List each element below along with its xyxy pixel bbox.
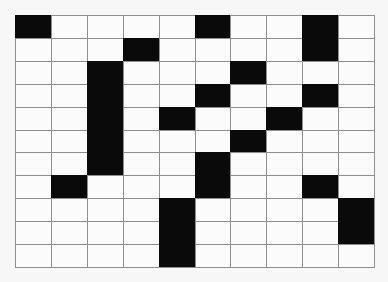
grid-cell-r10-c6[interactable] [230,244,266,267]
grid-cell-r8-c0[interactable] [15,198,51,221]
grid-cell-r1-c6[interactable] [230,38,266,61]
grid-cell-r1-c9[interactable] [338,38,374,61]
grid-cell-r5-c9[interactable] [338,130,374,153]
grid-cell-r0-c5[interactable] [195,15,231,38]
grid-cell-r7-c6[interactable] [230,175,266,198]
grid-cell-r9-c5[interactable] [195,221,231,244]
grid-cell-r8-c6[interactable] [230,198,266,221]
grid-cell-r4-c7[interactable] [266,107,302,130]
grid-cell-r2-c7[interactable] [266,61,302,84]
grid-cell-r6-c5[interactable] [195,152,231,175]
grid-cell-r10-c2[interactable] [87,244,123,267]
grid-cell-r4-c4[interactable] [159,107,195,130]
grid-cell-r5-c7[interactable] [266,130,302,153]
grid-cell-r3-c5[interactable] [195,84,231,107]
grid-cell-r0-c8[interactable] [302,15,338,38]
grid-cell-r7-c4[interactable] [159,175,195,198]
grid-cell-r6-c6[interactable] [230,152,266,175]
grid-cell-r5-c5[interactable] [195,130,231,153]
grid-cell-r1-c5[interactable] [195,38,231,61]
grid-cell-r9-c8[interactable] [302,221,338,244]
grid-cell-r3-c9[interactable] [338,84,374,107]
grid-cell-r10-c3[interactable] [123,244,159,267]
grid-cell-r6-c4[interactable] [159,152,195,175]
grid-cell-r4-c0[interactable] [15,107,51,130]
grid-cell-r6-c3[interactable] [123,152,159,175]
grid-cell-r6-c7[interactable] [266,152,302,175]
grid-cell-r9-c2[interactable] [87,221,123,244]
grid-cell-r10-c5[interactable] [195,244,231,267]
grid-cell-r9-c4[interactable] [159,221,195,244]
grid-cell-r8-c5[interactable] [195,198,231,221]
grid-cell-r2-c2[interactable] [87,61,123,84]
grid-cell-r7-c8[interactable] [302,175,338,198]
grid-cell-r10-c8[interactable] [302,244,338,267]
grid-cell-r4-c3[interactable] [123,107,159,130]
grid-cell-r3-c4[interactable] [159,84,195,107]
grid-cell-r8-c1[interactable] [51,198,87,221]
grid-cell-r4-c2[interactable] [87,107,123,130]
grid-cell-r5-c8[interactable] [302,130,338,153]
grid-cell-r10-c4[interactable] [159,244,195,267]
grid-cell-r10-c1[interactable] [51,244,87,267]
grid-cell-r2-c4[interactable] [159,61,195,84]
grid-cell-r10-c9[interactable] [338,244,374,267]
grid-cell-r2-c6[interactable] [230,61,266,84]
grid-cell-r3-c0[interactable] [15,84,51,107]
grid-cell-r0-c3[interactable] [123,15,159,38]
grid-cell-r1-c8[interactable] [302,38,338,61]
grid-cell-r1-c7[interactable] [266,38,302,61]
grid-cell-r1-c2[interactable] [87,38,123,61]
grid-cell-r4-c1[interactable] [51,107,87,130]
grid-cell-r4-c5[interactable] [195,107,231,130]
grid-cell-r8-c9[interactable] [338,198,374,221]
grid-cell-r1-c4[interactable] [159,38,195,61]
grid-cell-r3-c1[interactable] [51,84,87,107]
grid-cell-r9-c6[interactable] [230,221,266,244]
grid-cell-r1-c1[interactable] [51,38,87,61]
grid-cell-r6-c8[interactable] [302,152,338,175]
grid-cell-r5-c2[interactable] [87,130,123,153]
grid-cell-r1-c0[interactable] [15,38,51,61]
grid-cell-r0-c9[interactable] [338,15,374,38]
grid-cell-r0-c6[interactable] [230,15,266,38]
grid-cell-r8-c8[interactable] [302,198,338,221]
grid-cell-r3-c8[interactable] [302,84,338,107]
grid-cell-r0-c4[interactable] [159,15,195,38]
grid-cell-r2-c1[interactable] [51,61,87,84]
grid-cell-r6-c1[interactable] [51,152,87,175]
grid-cell-r9-c0[interactable] [15,221,51,244]
grid-cell-r2-c5[interactable] [195,61,231,84]
grid-cell-r3-c3[interactable] [123,84,159,107]
grid-cell-r4-c6[interactable] [230,107,266,130]
grid-cell-r10-c7[interactable] [266,244,302,267]
grid-cell-r1-c3[interactable] [123,38,159,61]
grid-cell-r2-c3[interactable] [123,61,159,84]
grid-cell-r2-c8[interactable] [302,61,338,84]
grid-cell-r2-c0[interactable] [15,61,51,84]
grid-cell-r9-c7[interactable] [266,221,302,244]
grid-cell-r3-c6[interactable] [230,84,266,107]
grid-cell-r8-c2[interactable] [87,198,123,221]
grid-cell-r8-c3[interactable] [123,198,159,221]
grid-cell-r9-c9[interactable] [338,221,374,244]
grid-cell-r0-c2[interactable] [87,15,123,38]
grid-cell-r7-c7[interactable] [266,175,302,198]
grid-cell-r2-c9[interactable] [338,61,374,84]
grid-cell-r8-c4[interactable] [159,198,195,221]
grid-cell-r0-c7[interactable] [266,15,302,38]
grid-cell-r0-c1[interactable] [51,15,87,38]
grid-cell-r7-c1[interactable] [51,175,87,198]
grid-cell-r6-c0[interactable] [15,152,51,175]
grid-cell-r3-c7[interactable] [266,84,302,107]
grid-cell-r5-c0[interactable] [15,130,51,153]
grid-cell-r7-c9[interactable] [338,175,374,198]
grid-cell-r5-c3[interactable] [123,130,159,153]
grid-cell-r9-c1[interactable] [51,221,87,244]
grid-cell-r6-c9[interactable] [338,152,374,175]
grid-cell-r0-c0[interactable] [15,15,51,38]
grid-cell-r7-c3[interactable] [123,175,159,198]
grid-cell-r7-c0[interactable] [15,175,51,198]
grid-cell-r4-c9[interactable] [338,107,374,130]
grid-cell-r10-c0[interactable] [15,244,51,267]
